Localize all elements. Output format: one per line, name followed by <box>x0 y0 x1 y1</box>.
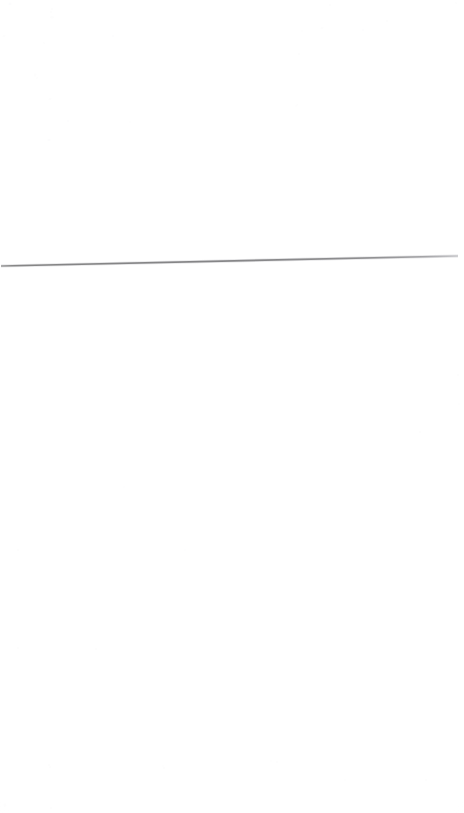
blank-region-below-rule <box>0 272 464 813</box>
scanned-page <box>0 0 464 813</box>
blank-region-above-rule <box>0 0 464 255</box>
